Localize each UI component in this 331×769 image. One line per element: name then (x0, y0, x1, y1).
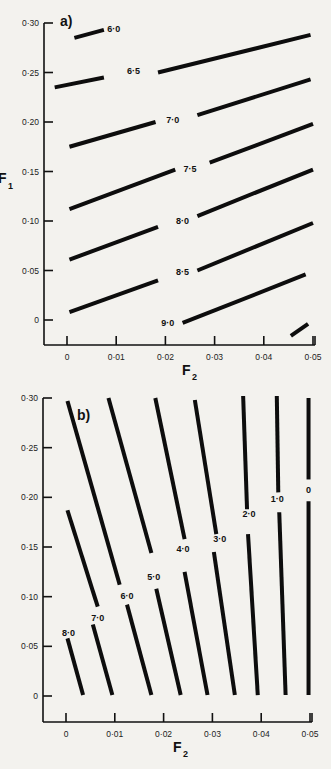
contour-label: 0 (306, 485, 311, 495)
x-axis-title: F (182, 362, 191, 378)
contour-line (197, 223, 313, 271)
contour-line (279, 512, 285, 695)
x-tick-label: 0 (65, 352, 70, 362)
panel-label: b) (77, 407, 90, 423)
contour-line (74, 30, 104, 38)
contour-label: 6·0 (120, 591, 133, 601)
y-tick-label: 0·15 (21, 542, 38, 552)
panel-label: a) (60, 13, 72, 29)
y-tick-label: 0·10 (21, 592, 38, 602)
contour-line (93, 624, 113, 695)
y-tick-label: 0·20 (21, 492, 38, 502)
contour-line (183, 274, 306, 323)
contour-label: 6·5 (127, 66, 140, 76)
contour-line (210, 124, 313, 163)
contour-figure: 00·050·100·150·200·250·3000·010·020·030·… (0, 0, 331, 769)
contour-line (248, 534, 258, 695)
contour-line (195, 400, 216, 534)
y-tick-label: 0 (34, 315, 39, 325)
contour-line (69, 280, 158, 312)
y-tick-label: 0·20 (22, 117, 39, 127)
x-tick-label: 0·04 (255, 352, 272, 362)
contour-line (277, 396, 278, 492)
x-tick-label: 0·05 (301, 729, 318, 739)
y-tick-label: 0·15 (22, 167, 39, 177)
x-tick-label: 0·02 (157, 352, 174, 362)
contour-label: 9·0 (161, 318, 174, 328)
y-tick-label: 0·30 (21, 393, 38, 403)
x-tick-label: 0·02 (155, 729, 172, 739)
y-tick-label: 0 (33, 691, 38, 701)
contour-line (155, 398, 184, 539)
y-tick-label: 0·05 (21, 641, 38, 651)
contour-label: 7·0 (91, 613, 104, 623)
contour-line (67, 638, 83, 695)
y-tick-label: 0·25 (22, 68, 39, 78)
x-tick-label: 0·05 (304, 352, 321, 362)
contour-label: 1·0 (271, 494, 284, 504)
contour-label: 7·0 (166, 115, 179, 125)
contour-label: 5·0 (147, 572, 160, 582)
x-tick-label: 0 (64, 729, 69, 739)
contour-label: 2·0 (242, 509, 255, 519)
y-axis-title: F (0, 170, 7, 186)
x-tick-label: 0·04 (253, 729, 270, 739)
contour-label: 8·5 (176, 267, 189, 277)
x-tick-label: 0·01 (106, 729, 123, 739)
panel-b-chart: 00·050·100·150·200·250·3000·010·020·030·… (0, 385, 331, 769)
contour-line (214, 552, 235, 695)
x-axis-title: F (173, 739, 182, 755)
x-axis-title-subscript: 2 (192, 372, 197, 382)
contour-line (69, 227, 158, 260)
y-tick-label: 0·30 (22, 18, 39, 28)
contour-line (185, 572, 208, 695)
contour-line (55, 77, 104, 87)
y-tick-label: 0·25 (21, 443, 38, 453)
contour-label: 7·5 (183, 164, 196, 174)
contour-line (197, 170, 313, 217)
contour-line (108, 398, 151, 553)
contour-line (67, 510, 97, 606)
x-tick-label: 0·01 (108, 352, 125, 362)
contour-line (156, 589, 180, 695)
x-tick-label: 0·03 (204, 729, 221, 739)
contour-line (243, 396, 247, 509)
x-tick-label: 0·03 (206, 352, 223, 362)
contour-line (197, 79, 310, 115)
contour-label: 4·0 (177, 544, 190, 554)
contour-label: 8·0 (176, 216, 189, 226)
contour-label: 8·0 (62, 628, 75, 638)
x-axis-title-subscript: 2 (183, 749, 188, 759)
contour-line (158, 35, 311, 73)
contour-label: 6·0 (107, 24, 120, 34)
contour-line (291, 324, 308, 336)
contour-line (127, 605, 151, 695)
y-tick-label: 0·10 (22, 216, 39, 226)
contour-line (69, 122, 155, 147)
contour-line (67, 401, 119, 585)
contour-label: 3·0 (213, 534, 226, 544)
contour-line (69, 170, 175, 210)
y-tick-label: 0·05 (22, 266, 39, 276)
y-axis-title-subscript: 1 (8, 181, 13, 191)
panel-a-chart: 00·050·100·150·200·250·3000·010·020·030·… (0, 0, 331, 385)
